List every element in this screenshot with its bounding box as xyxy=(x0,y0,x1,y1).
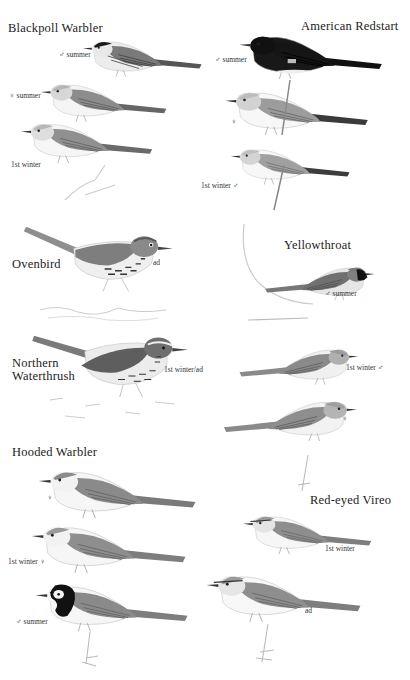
ground-illustration xyxy=(45,392,185,422)
figure-label: 1st winter xyxy=(325,544,355,553)
figure-label: 1st winter ♂ xyxy=(346,363,383,372)
species-title-northern-waterthrush-line2: Waterthrush xyxy=(12,370,75,383)
branch-illustration xyxy=(55,160,135,205)
figure-label: ♀ xyxy=(231,117,237,126)
red-eyed-vireo-adult-illustration xyxy=(203,565,365,625)
figure-label: ad xyxy=(305,606,312,615)
hooded-warbler-male-summer-illustration xyxy=(32,576,192,634)
figure-label: 1st winter xyxy=(11,160,41,169)
figure-label: ♂ summer xyxy=(215,55,247,64)
american-redstart-male-summer-illustration xyxy=(236,26,386,82)
branch-illustration xyxy=(262,75,302,215)
figure-label: 1st winter ♀ xyxy=(8,557,45,566)
species-title-hooded-warbler: Hooded Warbler xyxy=(12,446,97,459)
yellowthroat-female-illustration xyxy=(220,393,360,443)
hooded-warbler-1st-winter-female-illustration xyxy=(28,518,190,574)
figure-label: ♀ summer xyxy=(9,91,41,100)
figure-label: 1st winter/ad xyxy=(164,365,203,374)
figure-label: ad xyxy=(153,258,160,267)
figure-label: ♀ xyxy=(342,414,348,423)
figure-label: ♀ xyxy=(47,493,53,502)
figure-label: ♂ summer xyxy=(325,289,357,298)
yellowthroat-male-summer-illustration xyxy=(262,260,377,302)
blackpoll-warbler-1st-winter-illustration xyxy=(18,113,156,167)
branch-illustration xyxy=(296,455,316,495)
branch-illustration xyxy=(252,622,282,667)
figure-label: ♂ summer xyxy=(59,50,91,59)
branch-illustration xyxy=(78,630,108,670)
figure-label: ♂ summer xyxy=(16,617,48,626)
blackpoll-warbler-male-summer-illustration xyxy=(80,32,205,80)
species-title-red-eyed-vireo: Red-eyed Vireo xyxy=(310,494,391,507)
ground-illustration xyxy=(38,300,168,325)
figure-label: 1st winter ♂ xyxy=(201,181,238,190)
hooded-warbler-female-illustration xyxy=(35,463,200,519)
species-title-ovenbird: Ovenbird xyxy=(12,258,61,271)
yellowthroat-1st-winter-male-illustration xyxy=(236,340,361,388)
